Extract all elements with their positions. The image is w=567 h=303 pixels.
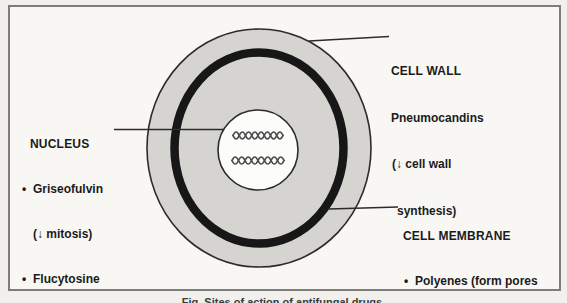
callout-line-cell-wall bbox=[309, 37, 389, 42]
bullet-icon: • bbox=[22, 272, 33, 287]
cell-wall-drug: Pneumocandins bbox=[391, 111, 484, 127]
nucleus-drug-flucytosine: •Flucytosine bbox=[22, 272, 109, 287]
nucleus-drug-griseofulvin: •Griseofulvin bbox=[22, 182, 109, 197]
bullet-icon: • bbox=[404, 274, 415, 289]
nucleus-title: NUCLEUS bbox=[22, 137, 109, 152]
scanned-page: NUCLEUS •Griseofulvin (↓ mitosis) •Flucy… bbox=[0, 0, 567, 303]
bullet-icon: • bbox=[22, 182, 33, 197]
nucleus-circle bbox=[218, 110, 298, 190]
cell-membrane-title: CELL MEMBRANE bbox=[391, 229, 538, 244]
drug-name: Flucytosine bbox=[33, 272, 100, 286]
cell-wall-effect-line1: (↓ cell wall bbox=[391, 157, 484, 173]
nucleus-annotation: NUCLEUS •Griseofulvin (↓ mitosis) •Flucy… bbox=[22, 107, 109, 303]
figure-caption: Fig. Sites of action of antifungal drugs… bbox=[0, 296, 567, 303]
drug-name: Polyenes (form pores bbox=[415, 274, 538, 288]
drug-name: Griseofulvin bbox=[33, 182, 103, 196]
membrane-drug-polyenes: •Polyenes (form pores bbox=[391, 274, 538, 289]
cell-membrane-annotation: CELL MEMBRANE •Polyenes (form pores & le… bbox=[391, 199, 538, 303]
griseofulvin-effect: (↓ mitosis) bbox=[22, 227, 109, 242]
cell-wall-title: CELL WALL bbox=[391, 64, 484, 80]
